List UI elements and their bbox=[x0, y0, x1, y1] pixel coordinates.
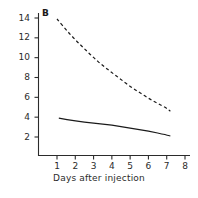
series-dashed-curve bbox=[57, 19, 170, 111]
data-series-layer bbox=[57, 19, 170, 136]
series-solid-curve bbox=[59, 118, 171, 136]
axis-lines bbox=[38, 13, 190, 156]
x-tick-label: 6 bbox=[142, 162, 154, 171]
y-tick-label: 12 bbox=[12, 33, 30, 42]
x-tick-label: 8 bbox=[179, 162, 191, 171]
x-axis-ticks bbox=[57, 156, 185, 160]
x-tick-label: 1 bbox=[51, 162, 63, 171]
y-tick-label: 6 bbox=[12, 93, 30, 102]
x-tick-label: 2 bbox=[69, 162, 81, 171]
y-tick-label: 10 bbox=[12, 53, 30, 62]
y-tick-label: 14 bbox=[12, 14, 30, 23]
x-tick-label: 7 bbox=[161, 162, 173, 171]
y-tick-label: 4 bbox=[12, 113, 30, 122]
x-axis-title: Days after injection bbox=[0, 173, 198, 183]
y-tick-label: 2 bbox=[12, 133, 30, 142]
x-tick-label: 3 bbox=[88, 162, 100, 171]
y-axis-ticks bbox=[35, 18, 39, 137]
x-tick-label: 4 bbox=[106, 162, 118, 171]
chart-figure: B 2468101214 12345678 Days after injecti… bbox=[0, 0, 198, 198]
x-axis-title-text: Days after injection bbox=[53, 173, 145, 183]
x-tick-label: 5 bbox=[124, 162, 136, 171]
y-tick-label: 8 bbox=[12, 73, 30, 82]
